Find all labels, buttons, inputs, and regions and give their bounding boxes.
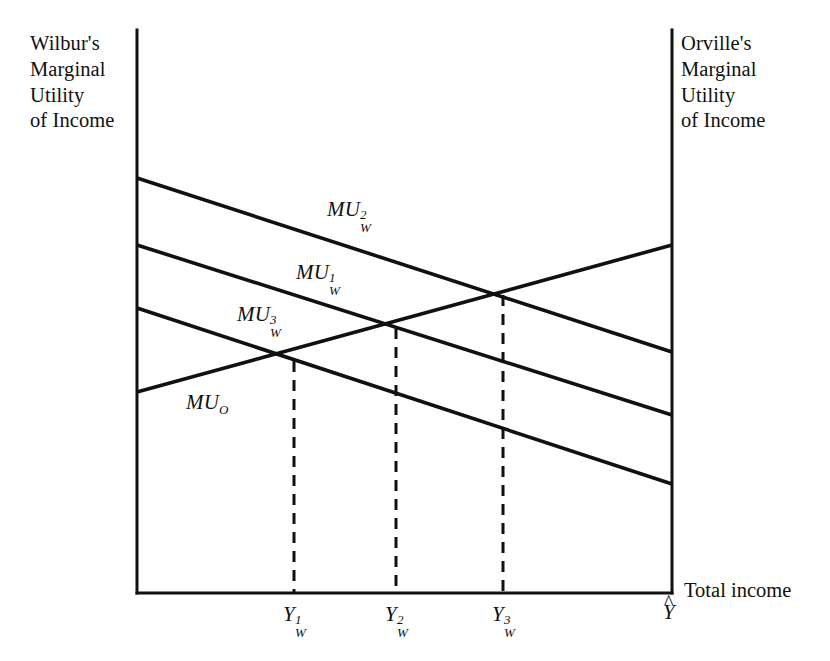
curve-label-mu2w-sub: W (360, 220, 371, 236)
curve-label-mu1w-sub: W (329, 283, 340, 299)
right-axis-caption: Orville's Marginal Utility of Income (681, 31, 821, 134)
left-axis-caption-line-1: Wilbur's (30, 31, 135, 57)
x-axis-endpoint-label-yhat: ^Y (663, 599, 675, 625)
x-tick-label-y2w: Y2W (385, 601, 410, 627)
left-axis-caption: Wilbur's Marginal Utility of Income (30, 31, 135, 134)
circumflex-accent: ^ (664, 590, 674, 615)
curve-label-mu2w-base: MU (327, 197, 360, 221)
curve-label-muo: MUO (186, 389, 228, 419)
curve-label-muo-base: MU (186, 390, 219, 414)
curve-mu2w (137, 178, 672, 352)
curve-muo (137, 245, 672, 392)
right-axis-caption-line-2: Marginal (681, 57, 821, 83)
x-axis-label: Total income (684, 578, 791, 604)
x-tick-label-y2w-sub: W (397, 625, 408, 641)
marginal-utility-figure: Wilbur's Marginal Utility of Income Orvi… (0, 0, 830, 661)
right-axis-caption-line-4: of Income (681, 108, 821, 134)
curve-label-muo-sub: O (219, 402, 228, 417)
x-tick-label-y1w-sub: W (295, 625, 306, 641)
left-axis-caption-line-2: Marginal (30, 57, 135, 83)
curve-label-mu3w-base: MU (237, 302, 270, 326)
curve-label-mu2w: MU2W (327, 196, 373, 222)
curve-label-mu3w-sub: W (270, 325, 281, 341)
x-tick-label-y3w: Y3W (492, 601, 517, 627)
x-tick-label-y1w-base: Y (283, 602, 295, 626)
right-axis-caption-line-1: Orville's (681, 31, 821, 57)
x-tick-label-y2w-base: Y (385, 602, 397, 626)
x-tick-label-y1w: Y1W (283, 601, 308, 627)
yhat-glyph: ^Y (663, 599, 675, 625)
curve-label-mu1w-base: MU (296, 260, 329, 284)
left-axis-caption-line-3: Utility (30, 83, 135, 109)
curve-label-mu1w: MU1W (296, 259, 342, 285)
curve-label-mu3w: MU3W (237, 301, 283, 327)
x-tick-label-y3w-base: Y (492, 602, 504, 626)
right-axis-caption-line-3: Utility (681, 83, 821, 109)
left-axis-caption-line-4: of Income (30, 108, 135, 134)
x-tick-label-y3w-sub: W (504, 625, 515, 641)
